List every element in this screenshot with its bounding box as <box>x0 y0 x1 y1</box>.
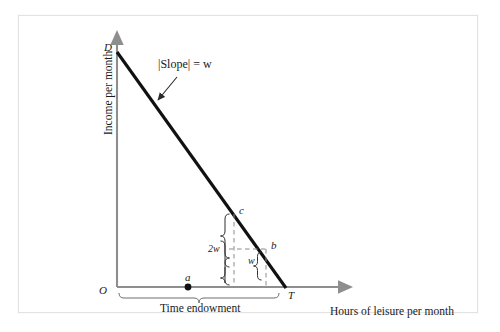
time-endowment-label: Time endowment <box>160 303 240 315</box>
budget-constraint-line <box>117 52 286 288</box>
x-axis-title: Hours of leisure per month <box>330 306 454 318</box>
point-label-c: c <box>239 205 244 216</box>
origin-label: O <box>99 285 107 296</box>
figure-canvas: Income per month Hours of leisure per mo… <box>0 0 500 332</box>
budget-constraint-plot <box>0 0 500 332</box>
brace-label-2w: 2w <box>208 244 220 254</box>
point-label-b: b <box>271 240 277 251</box>
point-label-T: T <box>288 290 294 301</box>
slope-annotation-arrow <box>158 77 177 100</box>
point-label-D: D <box>104 42 112 53</box>
brace-2w-lower <box>221 241 230 267</box>
point-label-a: a <box>185 272 191 283</box>
brace-label-w: w <box>248 256 255 266</box>
y-axis-title: Income per month <box>103 51 115 135</box>
brace-2w-bottom-tail <box>225 267 230 285</box>
point-a-marker <box>185 284 192 291</box>
slope-annotation-label: |Slope| = w <box>158 58 212 70</box>
